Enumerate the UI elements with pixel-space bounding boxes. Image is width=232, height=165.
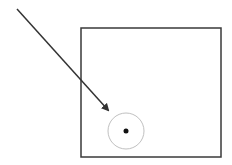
square-box (81, 28, 221, 157)
target-dot (124, 129, 129, 134)
pointer-arrow (17, 9, 108, 110)
diagram-canvas (0, 0, 232, 165)
